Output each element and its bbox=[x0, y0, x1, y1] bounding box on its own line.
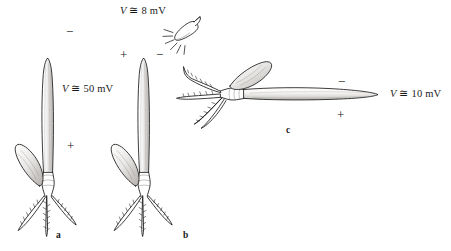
panel-b-voltage-label: V ≅ 8 mV bbox=[120, 6, 166, 17]
panel-a-voltage-relation: ≅ bbox=[71, 83, 80, 94]
root-lateral-right-a bbox=[52, 196, 77, 225]
panel-b-illuminated-side-sign: − bbox=[156, 48, 163, 61]
panel-a-voltage-value: 50 mV bbox=[83, 83, 113, 94]
seedling-bioelectric-potential-figure: − V ≅ 50 mV + a V ≅ 8 mV + − b − + V ≅ 1… bbox=[0, 0, 451, 251]
panel-b-shaded-side-sign: + bbox=[120, 48, 127, 61]
lamp-reflector bbox=[175, 21, 198, 40]
panel-c-voltage-label: V ≅ 10 mV bbox=[390, 89, 441, 100]
seed-grain-c bbox=[230, 62, 272, 90]
root-primary-a bbox=[46, 196, 48, 237]
panel-c-lower-sign: + bbox=[337, 108, 344, 121]
seedling-c bbox=[177, 62, 379, 129]
panel-letter-c: c bbox=[286, 126, 290, 136]
panel-b-voltage-value: 8 mV bbox=[141, 5, 165, 16]
seed-grain-b bbox=[111, 144, 139, 186]
root-lateral-left-a bbox=[18, 196, 45, 231]
panel-b-voltage-symbol: V bbox=[120, 5, 127, 16]
root-lower-left2-c bbox=[201, 99, 226, 128]
panel-a-voltage-label: V ≅ 50 mV bbox=[62, 84, 113, 95]
panel-c-voltage-relation: ≅ bbox=[399, 88, 408, 99]
panel-a-tip-sign: − bbox=[66, 25, 73, 38]
root-primary-b bbox=[142, 196, 144, 237]
panel-b-voltage-relation: ≅ bbox=[129, 5, 138, 16]
panel-c-upper-sign: − bbox=[338, 75, 345, 88]
root-middle-left-c bbox=[177, 94, 221, 99]
lamp-icon bbox=[163, 17, 200, 55]
panel-c-voltage-symbol: V bbox=[390, 88, 397, 99]
panel-a-voltage-symbol: V bbox=[62, 83, 69, 94]
seed-grain-a bbox=[15, 144, 43, 186]
panel-letter-a: a bbox=[56, 231, 61, 241]
coleoptile-a bbox=[42, 58, 54, 172]
panel-c-voltage-value: 10 mV bbox=[411, 88, 441, 99]
seedling-b bbox=[111, 58, 172, 237]
lamp-socket bbox=[194, 17, 200, 26]
panel-letter-b: b bbox=[183, 231, 188, 241]
coleoptile-b bbox=[138, 58, 150, 172]
root-upper-left-c bbox=[184, 67, 221, 93]
root-lateral-right-b bbox=[148, 196, 173, 225]
panel-a-base-sign: + bbox=[67, 139, 74, 152]
root-lateral-left-b bbox=[114, 196, 141, 231]
